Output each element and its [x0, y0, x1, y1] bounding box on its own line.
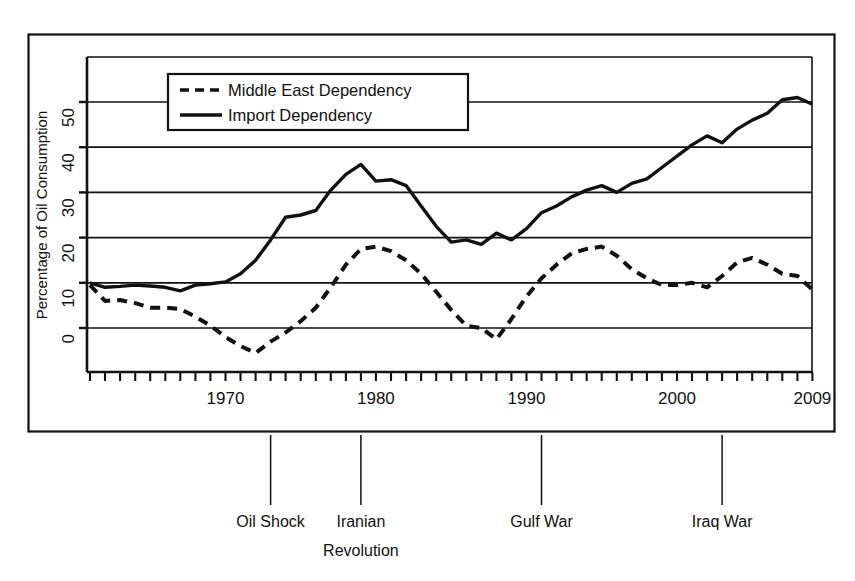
x-tick-label-1970: 1970 — [207, 389, 245, 408]
x-tick-label-2009: 2009 — [793, 389, 831, 408]
annotation-label-iraq-war: Iraq War — [692, 513, 753, 530]
legend-label-middle-east: Middle East Dependency — [228, 81, 412, 99]
y-tick-label-0: 0 — [59, 334, 78, 343]
y-tick-label-20: 20 — [59, 244, 78, 263]
y-tick-label-50: 50 — [59, 108, 78, 127]
x-tick-label-1990: 1990 — [508, 389, 546, 408]
chart-canvas: 01020304050 19701980199020002009 Percent… — [0, 0, 855, 581]
legend-label-imports: Import Dependency — [228, 106, 373, 124]
y-tick-label-10: 10 — [59, 289, 78, 308]
annotation-label-gulf-war: Gulf War — [510, 513, 573, 530]
annotation-group: Oil ShockIranianRevolutionGulf WarIraq W… — [236, 435, 753, 559]
x-tick-label-2000: 2000 — [658, 389, 696, 408]
y-tick-label-30: 30 — [59, 198, 78, 217]
annotation-label-oil-shock: Oil Shock — [236, 513, 305, 530]
y-axis-title: Percentage of Oil Consumption — [33, 111, 50, 319]
annotation-label-iranian: Iranian — [336, 513, 385, 530]
chart-legend: Middle East Dependency Import Dependency — [168, 74, 468, 130]
x-tick-label-1980: 1980 — [357, 389, 395, 408]
annotation-label-revolution: Revolution — [323, 542, 399, 559]
y-tick-label-40: 40 — [59, 153, 78, 172]
oil-dependency-chart-figure: 01020304050 19701980199020002009 Percent… — [0, 0, 855, 581]
